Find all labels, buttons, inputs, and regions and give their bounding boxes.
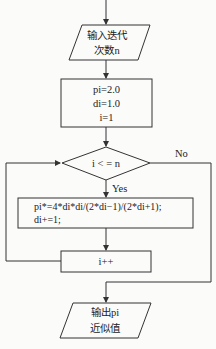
output-node-text: 输出pi 近似值 (70, 306, 140, 335)
input-line-1: 输入迭代 (72, 29, 142, 42)
body-line-1: pi*=4*di*di/(2*di−1)/(2*di+1); (34, 200, 161, 213)
init-line-2: di=1.0 (61, 97, 152, 110)
condition-label: i < = n (76, 157, 136, 170)
input-node-text: 输入迭代 次数n (72, 29, 142, 57)
init-line-1: pi=2.0 (61, 83, 152, 96)
init-node-text: pi=2.0 di=1.0 i=1 (61, 83, 152, 124)
input-line-2: 次数n (72, 44, 142, 57)
increment-label: i++ (61, 255, 151, 268)
output-line-2: 近似值 (70, 322, 140, 335)
yes-label: Yes (112, 182, 127, 195)
body-node-text: pi*=4*di*di/(2*di−1)/(2*di+1); di+=1; (34, 200, 161, 226)
body-line-2: di+=1; (34, 213, 161, 226)
no-label: No (175, 147, 188, 160)
output-line-1: 输出pi (70, 306, 140, 319)
init-line-3: i=1 (61, 111, 152, 124)
